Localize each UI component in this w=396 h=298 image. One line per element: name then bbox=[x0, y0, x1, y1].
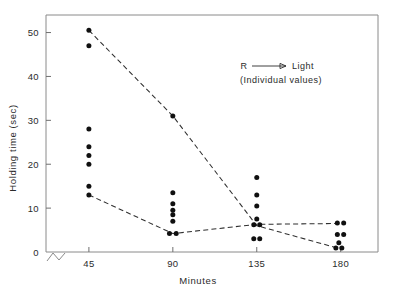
data-point-marker bbox=[254, 217, 259, 222]
x-tick-label: 135 bbox=[248, 258, 265, 269]
x-tick-label: 45 bbox=[83, 258, 94, 269]
data-point-marker bbox=[335, 221, 340, 226]
data-point-marker bbox=[86, 127, 91, 132]
data-point-marker bbox=[170, 212, 175, 217]
legend-subtitle: (Individual values) bbox=[240, 75, 322, 85]
y-tick-label: 30 bbox=[28, 115, 39, 126]
data-point-marker bbox=[333, 246, 338, 251]
data-point-marker bbox=[86, 184, 91, 189]
data-point-marker bbox=[254, 203, 259, 208]
y-tick-label: 40 bbox=[28, 71, 39, 82]
data-point-marker bbox=[170, 219, 175, 224]
data-point-marker bbox=[170, 113, 175, 118]
y-tick-label: 20 bbox=[28, 159, 39, 170]
data-point-marker bbox=[339, 246, 344, 251]
data-point-marker bbox=[86, 162, 91, 167]
data-point-marker bbox=[86, 43, 91, 48]
data-point-marker bbox=[86, 192, 91, 197]
legend-source-label: R bbox=[241, 61, 248, 71]
data-point-marker bbox=[170, 208, 175, 213]
data-point-marker bbox=[174, 231, 179, 236]
x-axis-title: Minutes bbox=[179, 275, 216, 286]
data-point-marker bbox=[257, 236, 262, 241]
chart-figure: 01020304050 4590135180 Minutes Holding t… bbox=[0, 0, 396, 298]
data-point-marker bbox=[251, 236, 256, 241]
data-point-marker bbox=[170, 190, 175, 195]
data-point-marker bbox=[167, 231, 172, 236]
data-point-marker bbox=[336, 240, 341, 245]
data-point-marker bbox=[341, 232, 346, 237]
data-point-marker bbox=[341, 221, 346, 226]
data-point-marker bbox=[257, 222, 262, 227]
holding-time-scatter-chart: 01020304050 4590135180 Minutes Holding t… bbox=[0, 0, 396, 298]
y-tick-label: 0 bbox=[33, 247, 39, 258]
chart-background bbox=[0, 0, 396, 298]
y-tick-label: 50 bbox=[28, 27, 39, 38]
y-tick-label: 10 bbox=[28, 203, 39, 214]
y-axis-title: Holding time (sec) bbox=[7, 104, 18, 191]
data-point-marker bbox=[254, 175, 259, 180]
x-tick-label: 90 bbox=[167, 258, 178, 269]
legend-target-label: Light bbox=[292, 61, 314, 71]
data-point-marker bbox=[86, 144, 91, 149]
data-point-marker bbox=[335, 232, 340, 237]
data-point-marker bbox=[170, 201, 175, 206]
data-point-marker bbox=[254, 192, 259, 197]
data-point-marker bbox=[86, 28, 91, 33]
data-point-marker bbox=[86, 153, 91, 158]
data-point-marker bbox=[251, 222, 256, 227]
x-tick-label: 180 bbox=[332, 258, 349, 269]
